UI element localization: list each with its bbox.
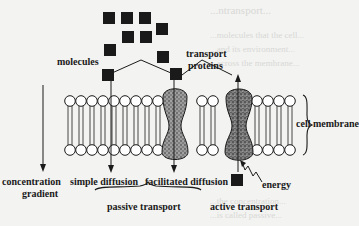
- phospholipid-head: [263, 145, 274, 156]
- facilitated-diffusion-label: facilitated diffusion: [145, 176, 228, 187]
- facilitated-transport-protein: [162, 89, 188, 160]
- phospholipid-head: [274, 96, 285, 107]
- passive-transport-label: passive transport: [107, 201, 181, 212]
- arrowhead-icon: [108, 165, 114, 173]
- phospholipid-head: [274, 145, 285, 156]
- simple-diffusion-label: simple diffusion: [70, 176, 138, 187]
- molecule-square: [157, 51, 169, 63]
- active-transport-protein: [225, 89, 253, 160]
- phospholipid-head: [285, 145, 296, 156]
- concentration-gradient-label-line2: gradient: [22, 188, 58, 199]
- phospholipid-head: [142, 96, 153, 107]
- arrowhead-icon: [171, 165, 177, 173]
- phospholipid-head: [252, 96, 263, 107]
- phospholipid-head: [109, 145, 120, 156]
- phospholipid-head: [153, 96, 164, 107]
- phospholipid-head: [87, 145, 98, 156]
- molecule-square: [122, 31, 134, 43]
- phospholipid-head: [197, 145, 208, 156]
- phospholipid-head: [208, 145, 219, 156]
- molecule-square: [103, 12, 115, 24]
- phospholipid-head: [197, 96, 208, 107]
- molecule-square: [121, 12, 133, 24]
- molecule-square: [156, 23, 168, 35]
- phospholipid-head: [285, 96, 296, 107]
- molecule-square: [140, 31, 152, 43]
- active-transport-label: active transport: [210, 201, 278, 212]
- phospholipid-head: [142, 145, 153, 156]
- molecule-square: [170, 68, 182, 80]
- transport-proteins-label-line1: transport: [186, 48, 227, 59]
- phospholipid-head: [76, 145, 87, 156]
- phospholipid-head: [109, 96, 120, 107]
- phospholipid-head: [87, 96, 98, 107]
- molecules-label: molecules: [57, 56, 99, 67]
- arrowhead-icon: [240, 160, 246, 167]
- energy-lightning-icon: [242, 162, 262, 182]
- phospholipid-head: [76, 96, 87, 107]
- molecule-square: [102, 69, 114, 81]
- phospholipid-head: [131, 145, 142, 156]
- phospholipid-head: [131, 96, 142, 107]
- phospholipid-head: [98, 145, 109, 156]
- concentration-gradient-label-line1: concentration: [2, 176, 61, 187]
- arrowhead-up-icon: [235, 74, 241, 82]
- phospholipid-head: [65, 96, 76, 107]
- phospholipid-head: [65, 145, 76, 156]
- phospholipid-head: [208, 96, 219, 107]
- transport-proteins-label-line2: proteins: [188, 60, 223, 71]
- phospholipid-head: [120, 145, 131, 156]
- molecule-square: [104, 44, 116, 56]
- arrowhead-icon: [40, 164, 46, 172]
- phospholipid-head: [120, 96, 131, 107]
- phospholipid-head: [98, 96, 109, 107]
- cell-membrane-label: cell membrane: [296, 118, 359, 129]
- phospholipid-head: [263, 96, 274, 107]
- energy-label: energy: [262, 179, 291, 190]
- molecule-square: [231, 174, 243, 186]
- molecule-square: [139, 12, 151, 24]
